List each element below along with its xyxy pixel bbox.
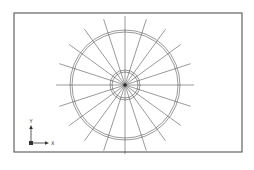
- x-arrowhead-icon: [45, 141, 49, 145]
- origin-marker-icon: [29, 141, 33, 145]
- axis-indicator: Y X: [29, 118, 56, 146]
- cad-viewport[interactable]: Y X: [0, 0, 254, 170]
- hub-marker: [124, 84, 127, 87]
- x-axis-label: X: [51, 140, 55, 146]
- y-arrowhead-icon: [29, 125, 33, 129]
- y-axis-label: Y: [29, 118, 34, 124]
- wheel-drawing: [56, 16, 194, 154]
